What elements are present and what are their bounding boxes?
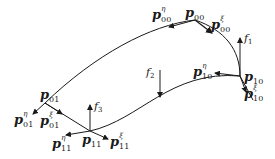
label-p01-eta: p01η — [14, 113, 37, 129]
label-p01-xi: p01ξ — [40, 114, 63, 130]
label-f3: f3 — [94, 101, 103, 114]
label-p10-eta: p10η — [193, 65, 216, 81]
label-p11: p11 — [82, 133, 101, 149]
label-p00-eta: p00η — [152, 8, 175, 24]
label-f1: f1 — [244, 33, 253, 46]
label-p00: p00 — [185, 6, 204, 22]
label-p01: p01 — [40, 88, 59, 104]
label-p10-xi: p10ξ — [244, 87, 267, 103]
label-p11-xi: p11ξ — [110, 135, 133, 151]
label-p11-eta: p11η — [52, 137, 75, 153]
edge-p11-p10 — [90, 76, 240, 131]
label-p00-xi: p00ξ — [211, 18, 234, 34]
edge-p01-p00 — [45, 20, 195, 103]
label-f2: f2 — [146, 67, 155, 80]
